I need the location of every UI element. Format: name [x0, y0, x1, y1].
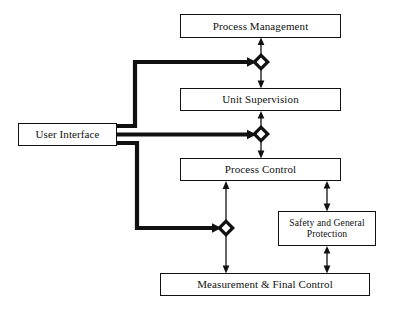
- junction-diamond-measurement: [217, 219, 235, 237]
- node-user-interface-label: User Interface: [19, 128, 116, 140]
- node-safety-label-line-1: Safety and General: [289, 217, 364, 228]
- connector-safety-to-measurement: [324, 246, 331, 274]
- connector-user-interface-to-junction-measurement: [117, 143, 222, 233]
- junction-diamond-management: [252, 53, 270, 71]
- diagram-connectors-layer: [0, 0, 401, 312]
- node-process-control[interactable]: Process Control: [180, 158, 341, 181]
- node-unit-supervision-label: Unit Supervision: [181, 93, 340, 105]
- node-safety-and-general-protection-label: Safety and General Protection: [279, 218, 375, 239]
- node-safety-label-line-2: Protection: [307, 228, 347, 239]
- node-measurement-and-final-control-label: Measurement & Final Control: [161, 278, 369, 290]
- connector-process-control-to-safety: [324, 181, 331, 212]
- node-user-interface[interactable]: User Interface: [18, 123, 117, 146]
- connector-junction-management-to-unit-supervision: [258, 68, 265, 89]
- node-process-control-label: Process Control: [181, 163, 340, 175]
- connector-user-interface-to-junction-supervision: [117, 130, 257, 140]
- node-measurement-and-final-control[interactable]: Measurement & Final Control: [160, 273, 370, 296]
- junction-diamond-supervision: [252, 125, 270, 143]
- node-safety-and-general-protection[interactable]: Safety and General Protection: [278, 211, 376, 246]
- node-unit-supervision[interactable]: Unit Supervision: [180, 88, 341, 111]
- node-process-management[interactable]: Process Management: [180, 14, 341, 38]
- node-process-management-label: Process Management: [181, 20, 340, 32]
- diagram-canvas: User Interface Process Management Unit S…: [0, 0, 401, 312]
